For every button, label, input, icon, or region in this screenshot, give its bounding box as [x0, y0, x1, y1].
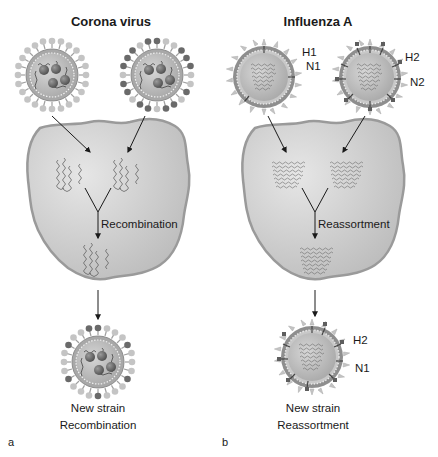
- process-label: Recombination: [101, 218, 178, 230]
- result-line-1: New strain: [286, 402, 340, 414]
- h-antigen-label: H2: [405, 51, 420, 63]
- influenza-virion-icon: [226, 39, 301, 115]
- h-antigen-label: H1: [302, 46, 317, 58]
- panel-a-title: Corona virus: [71, 14, 151, 29]
- result-line-2: Recombination: [60, 419, 137, 431]
- result-line-2: Reassortment: [277, 419, 349, 431]
- process-label: Reassortment: [318, 218, 390, 230]
- n-antigen-label: N2: [410, 76, 425, 88]
- influenza-virion-icon: [332, 39, 407, 115]
- coronavirus-particle-icon: [120, 38, 195, 113]
- n-antigen-label: N1: [306, 60, 321, 72]
- diagram-stage: Corona virus: [0, 0, 438, 457]
- panel-b: Influenza A H1 N1: [222, 14, 425, 448]
- host-cell-icon: [242, 119, 404, 279]
- n-antigen-label: N1: [355, 362, 370, 374]
- coronavirus-particle-icon: [61, 325, 136, 400]
- panel-letter: b: [222, 436, 228, 448]
- diagram-canvas: Corona virus: [0, 0, 438, 457]
- panel-b-title: Influenza A: [284, 14, 353, 29]
- influenza-virion-icon: [274, 319, 349, 395]
- panel-a: Corona virus: [8, 14, 194, 448]
- result-line-1: New strain: [71, 402, 125, 414]
- h-antigen-label: H2: [353, 334, 368, 346]
- coronavirus-particle-icon: [15, 38, 90, 113]
- panel-letter: a: [8, 436, 15, 448]
